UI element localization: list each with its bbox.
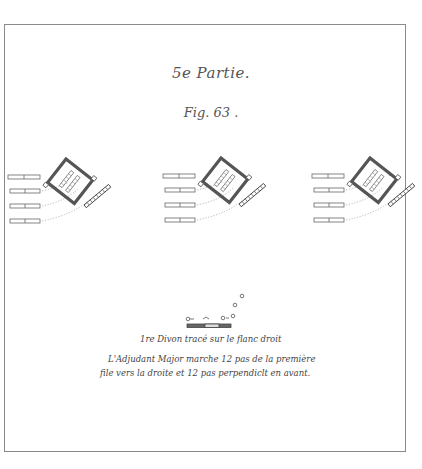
caption-line-2: L'Adjudant Major marche 12 pas de la pre… — [108, 354, 315, 364]
formation-diagram-right — [312, 154, 415, 222]
adjutant-diagram — [186, 294, 244, 327]
caption-line-3: file vers la droite et 12 pas perpendicl… — [100, 368, 310, 378]
diagram-canvas — [0, 0, 422, 469]
formation-diagram-center — [163, 154, 266, 222]
caption-line-1: 1re Divon tracé sur le flanc droit — [140, 334, 281, 344]
formation-diagram-left — [8, 155, 111, 223]
marker-dot — [389, 174, 391, 176]
